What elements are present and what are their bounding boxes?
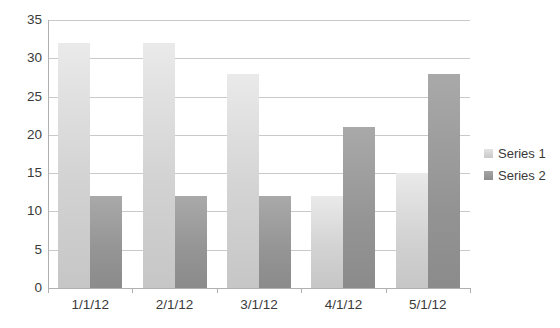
x-axis-tickmark bbox=[470, 288, 471, 293]
bar-group bbox=[217, 20, 301, 288]
x-axis-tickmark bbox=[132, 288, 133, 293]
legend-item-series-2[interactable]: Series 2 bbox=[484, 164, 560, 186]
x-axis-tickmark bbox=[48, 288, 49, 293]
bar-series-1-3/1/12 bbox=[227, 74, 259, 288]
bar-series-container bbox=[48, 20, 470, 288]
x-tick-label: 3/1/12 bbox=[217, 292, 301, 318]
y-tick-label: 20 bbox=[8, 128, 42, 142]
y-tick-label: 10 bbox=[8, 204, 42, 218]
x-tick-label: 4/1/12 bbox=[301, 292, 385, 318]
bar-chart: 05101520253035 1/1/122/1/123/1/124/1/125… bbox=[0, 0, 560, 328]
bar-series-2-1/1/12 bbox=[90, 196, 122, 288]
bar-group bbox=[48, 20, 132, 288]
x-tick-label: 1/1/12 bbox=[48, 292, 132, 318]
x-axis-tickmark bbox=[301, 288, 302, 293]
bar-series-1-4/1/12 bbox=[311, 196, 343, 288]
bar-series-1-1/1/12 bbox=[58, 43, 90, 288]
y-tick-label: 30 bbox=[8, 51, 42, 65]
y-tick-label: 25 bbox=[8, 90, 42, 104]
x-axis-tick-labels: 1/1/122/1/123/1/124/1/125/1/12 bbox=[48, 292, 470, 318]
chart-legend: Series 1Series 2 bbox=[484, 142, 560, 186]
legend-label: Series 2 bbox=[498, 168, 546, 183]
legend-item-series-1[interactable]: Series 1 bbox=[484, 142, 560, 164]
bar-series-1-5/1/12 bbox=[396, 173, 428, 288]
x-tick-label: 5/1/12 bbox=[386, 292, 470, 318]
bar-series-2-3/1/12 bbox=[259, 196, 291, 288]
bar-series-1-2/1/12 bbox=[143, 43, 175, 288]
gridline-0 bbox=[48, 288, 470, 289]
bar-series-2-4/1/12 bbox=[343, 127, 375, 288]
x-tick-label: 2/1/12 bbox=[132, 292, 216, 318]
y-axis-tick-labels: 05101520253035 bbox=[0, 0, 42, 328]
y-tick-label: 5 bbox=[8, 243, 42, 257]
legend-swatch-icon bbox=[484, 149, 493, 158]
y-tick-label: 15 bbox=[8, 166, 42, 180]
y-tick-label: 35 bbox=[8, 13, 42, 27]
y-tick-label: 0 bbox=[8, 281, 42, 295]
bar-group bbox=[132, 20, 216, 288]
bar-group bbox=[386, 20, 470, 288]
x-axis-tickmark bbox=[217, 288, 218, 293]
x-axis-tickmark bbox=[386, 288, 387, 293]
bar-series-2-2/1/12 bbox=[175, 196, 207, 288]
bar-series-2-5/1/12 bbox=[428, 74, 460, 288]
legend-swatch-icon bbox=[484, 171, 493, 180]
legend-label: Series 1 bbox=[498, 146, 546, 161]
bar-group bbox=[301, 20, 385, 288]
